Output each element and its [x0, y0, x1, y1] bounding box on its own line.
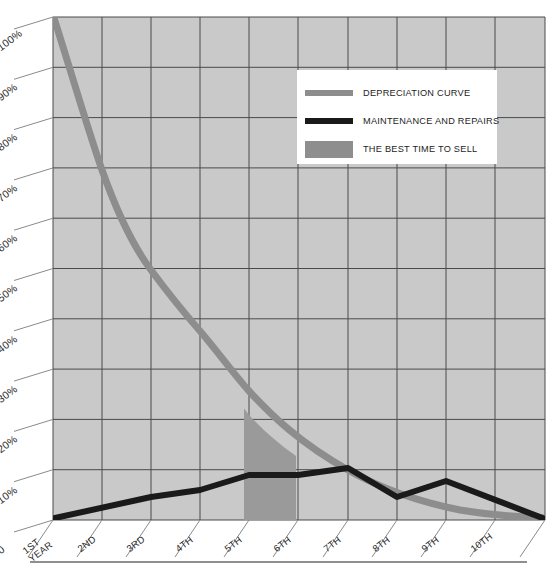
- legend-swatch-depreciation-icon: [305, 90, 353, 96]
- legend-label-depreciation: DEPRECIATION CURVE: [363, 88, 470, 98]
- legend-swatch-best-time-icon: [305, 141, 353, 158]
- y-tick-leaders: [14, 17, 53, 532]
- legend-swatch-maintenance-icon: [305, 118, 353, 124]
- legend-item-depreciation: DEPRECIATION CURVE: [305, 79, 489, 107]
- legend-item-best-time: THE BEST TIME TO SELL: [305, 135, 489, 163]
- depreciation-chart: 0 10% 20% 30% 40% 50% 60% 70% 80% 90% 10…: [0, 0, 557, 576]
- legend-item-maintenance: MAINTENANCE AND REPAIRS: [305, 107, 489, 135]
- legend-label-maintenance: MAINTENANCE AND REPAIRS: [363, 116, 499, 126]
- chart-legend: DEPRECIATION CURVE MAINTENANCE AND REPAI…: [297, 70, 497, 164]
- legend-label-best-time: THE BEST TIME TO SELL: [363, 144, 477, 154]
